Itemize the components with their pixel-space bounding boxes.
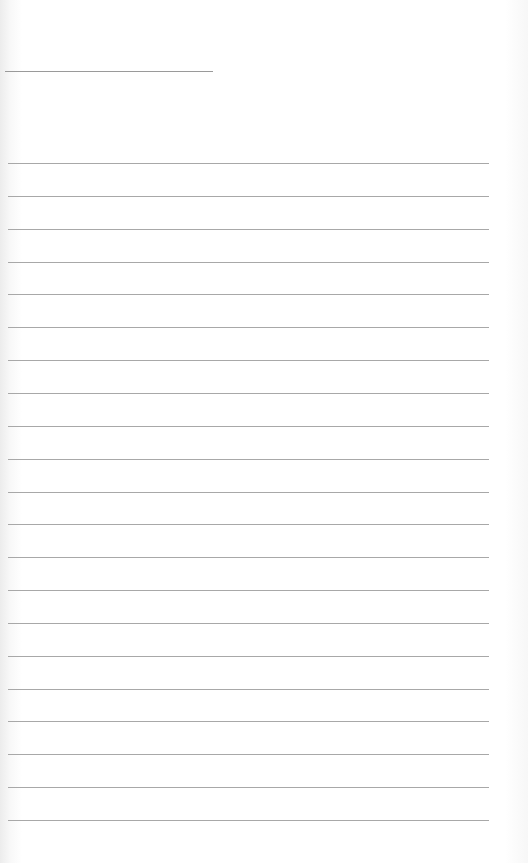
ruled-line: [8, 393, 489, 394]
ruled-line: [8, 787, 489, 788]
ruled-line: [8, 623, 489, 624]
ruled-line: [8, 360, 489, 361]
ruled-line: [8, 327, 489, 328]
ruled-line: [8, 656, 489, 657]
ruled-line: [8, 229, 489, 230]
ruled-line: [8, 557, 489, 558]
ruled-line: [8, 459, 489, 460]
ruled-line: [8, 754, 489, 755]
lined-paper-page: [0, 0, 528, 863]
ruled-line: [8, 196, 489, 197]
ruled-line: [8, 492, 489, 493]
ruled-line: [8, 820, 489, 821]
ruled-line: [8, 590, 489, 591]
ruled-line: [8, 426, 489, 427]
ruled-line: [8, 294, 489, 295]
ruled-line: [8, 262, 489, 263]
ruled-line: [8, 721, 489, 722]
header-write-line: [5, 71, 213, 72]
ruled-line: [8, 524, 489, 525]
ruled-line: [8, 163, 489, 164]
ruled-line: [8, 689, 489, 690]
